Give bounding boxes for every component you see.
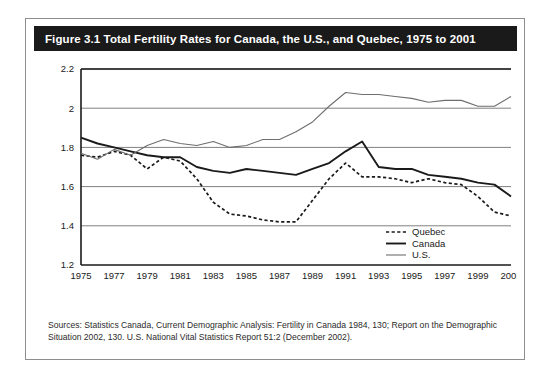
chart-plot-panel: 1.21.41.61.822.2 19751977197919811983198… bbox=[34, 57, 517, 302]
legend-label-quebec: Quebec bbox=[412, 226, 446, 237]
x-tick-label: 1995 bbox=[401, 270, 422, 281]
y-tick-label: 1.8 bbox=[61, 142, 74, 153]
x-tick-label: 1977 bbox=[104, 270, 125, 281]
figure-title-bar: Figure 3.1 Total Fertility Rates for Can… bbox=[34, 26, 517, 51]
x-tick-label: 1997 bbox=[434, 270, 455, 281]
x-tick-label: 1987 bbox=[269, 270, 290, 281]
data-series-group bbox=[81, 93, 511, 222]
y-tick-label: 2.2 bbox=[61, 63, 74, 74]
x-tick-label: 1979 bbox=[137, 270, 158, 281]
y-tick-label: 1.4 bbox=[61, 220, 74, 231]
x-tick-label: 1991 bbox=[335, 270, 356, 281]
x-tick-label: 1993 bbox=[368, 270, 389, 281]
figure-title: Figure 3.1 Total Fertility Rates for Can… bbox=[34, 33, 476, 45]
legend-label-canada: Canada bbox=[412, 238, 446, 249]
x-tick-label: 1999 bbox=[467, 270, 488, 281]
x-tick-label: 2001 bbox=[500, 270, 517, 281]
y-tick-label: 1.2 bbox=[61, 259, 74, 270]
figure-container: Figure 3.1 Total Fertility Rates for Can… bbox=[25, 18, 525, 360]
gridlines-group bbox=[81, 69, 511, 226]
x-tick-label: 1975 bbox=[70, 270, 91, 281]
chart-legend: QuebecCanadaU.S. bbox=[386, 226, 446, 260]
x-tick-label: 1989 bbox=[302, 270, 323, 281]
sources-block: Sources: Statistics Canada, Current Demo… bbox=[48, 319, 508, 344]
y-axis-tick-labels: 1.21.41.61.822.2 bbox=[61, 63, 74, 270]
fertility-rate-line-chart: 1.21.41.61.822.2 19751977197919811983198… bbox=[34, 57, 517, 302]
y-tick-label: 2 bbox=[69, 103, 74, 114]
x-axis-tick-labels: 1975197719791981198319851987198919911993… bbox=[70, 270, 517, 281]
x-tick-label: 1981 bbox=[170, 270, 191, 281]
x-tick-label: 1983 bbox=[203, 270, 224, 281]
x-tick-label: 1985 bbox=[236, 270, 257, 281]
y-tick-label: 1.6 bbox=[61, 181, 74, 192]
legend-label-us: U.S. bbox=[412, 249, 430, 260]
sources-note: Sources: Statistics Canada, Current Demo… bbox=[48, 319, 508, 344]
series-line-us bbox=[81, 93, 511, 160]
